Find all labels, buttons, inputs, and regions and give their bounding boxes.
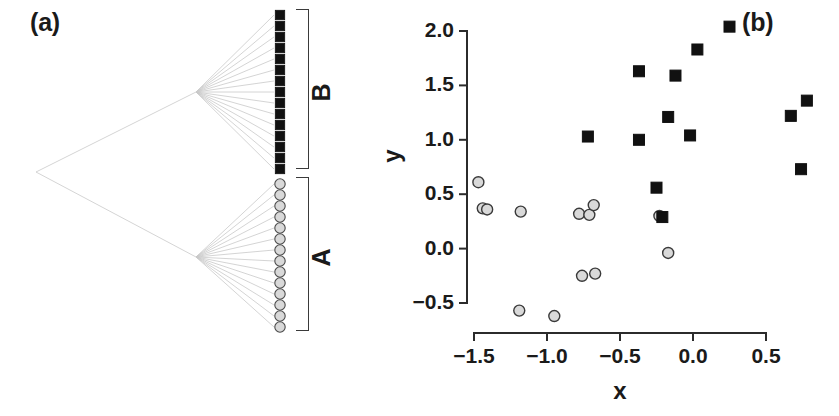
panel-a-tree: (a) B A [0, 0, 370, 416]
scatter-point-circle [588, 200, 599, 211]
tree-tip-circle [275, 311, 285, 321]
scatter-point-square [663, 111, 674, 122]
x-tick-label: −1.0 [507, 344, 587, 368]
scatter-point-square [796, 164, 807, 175]
tree-tip-square [275, 43, 284, 52]
y-tick-label: −0.5 [370, 290, 454, 314]
scatter-point-square [657, 212, 668, 223]
scatter-point-square [801, 95, 812, 106]
tree-tip-square [275, 120, 284, 129]
x-tick-label: −0.5 [580, 344, 660, 368]
tree-tip-circle [275, 234, 285, 244]
scatter-point-square [633, 66, 644, 77]
tree-tip-circle [275, 245, 285, 255]
tree-diagram [0, 0, 370, 416]
clade-label-a: A [307, 248, 336, 266]
y-tick-label: 0.5 [370, 181, 454, 205]
tree-tip-square [275, 153, 284, 162]
scatter-point-circle [549, 311, 560, 322]
scatter-point-square [785, 110, 796, 121]
scatter-point-square [651, 182, 662, 193]
tree-tip-circle [275, 322, 285, 332]
tree-tip-square [275, 10, 284, 19]
scatter-point-circle [590, 268, 601, 279]
tree-tip-circle [275, 267, 285, 277]
tree-tip-square [275, 76, 284, 85]
tree-tip-circle [275, 289, 285, 299]
tree-tip-square [275, 131, 284, 140]
scatter-point-square [692, 44, 703, 55]
scatter-point-circle [577, 270, 588, 281]
tree-tip-square [275, 142, 284, 151]
tree-tip-circle [275, 212, 285, 222]
tree-tip-square [275, 109, 284, 118]
x-axis-title: x [580, 377, 660, 405]
scatter-point-square [633, 134, 644, 145]
scatter-point-square [685, 130, 696, 141]
scatter-point-square [582, 131, 593, 142]
y-tick-label: 0.0 [370, 236, 454, 260]
panel-b-scatter: (b) x y −0.50.00.51.01.52.0−1.5−1.0−0.50… [370, 0, 839, 416]
tree-tip-circle [275, 223, 285, 233]
tree-tip-square [275, 87, 284, 96]
x-tick-label: −1.5 [434, 344, 514, 368]
tree-tip-square [275, 98, 284, 107]
tree-tip-square [275, 54, 284, 63]
tree-tip-square [275, 164, 284, 173]
y-tick-label: 1.0 [370, 127, 454, 151]
tree-tip-circle [275, 190, 285, 200]
tree-tip-square [275, 32, 284, 41]
tree-tip-circle [275, 256, 285, 266]
figure-container: (a) B A (b) x y −0.50.00.51.01.52.0−1.5−… [0, 0, 839, 416]
scatter-point-circle [515, 206, 526, 217]
tree-tip-square [275, 65, 284, 74]
tree-tip-circle [275, 278, 285, 288]
tree-tip-circle [275, 201, 285, 211]
scatter-point-circle [574, 208, 585, 219]
scatter-point-square [670, 70, 681, 81]
scatter-point-circle [663, 247, 674, 258]
y-tick-label: 1.5 [370, 72, 454, 96]
scatter-point-square [724, 21, 735, 32]
tree-tip-circle [275, 179, 285, 189]
x-tick-label: 0.5 [726, 344, 806, 368]
tree-tip-circle [275, 300, 285, 310]
tree-tip-square [275, 21, 284, 30]
x-tick-label: 0.0 [653, 344, 733, 368]
clade-label-b: B [307, 83, 336, 101]
scatter-point-circle [514, 305, 525, 316]
y-tick-label: 2.0 [370, 18, 454, 42]
scatter-point-circle [482, 204, 493, 215]
scatter-point-circle [473, 177, 484, 188]
